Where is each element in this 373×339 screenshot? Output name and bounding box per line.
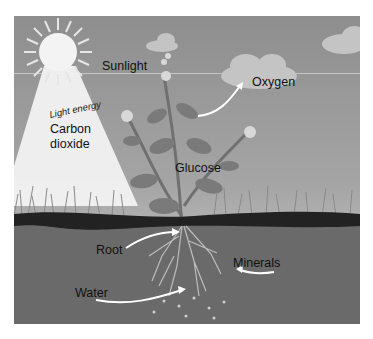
label-sunlight: Sunlight xyxy=(102,59,147,73)
photosynthesis-diagram: Sunlight Light energy Carbon dioxide Oxy… xyxy=(14,16,360,324)
sun-icon xyxy=(24,18,92,86)
label-oxygen: Oxygen xyxy=(252,75,295,89)
light-beam xyxy=(14,66,138,206)
label-minerals: Minerals xyxy=(233,256,280,270)
label-glucose: Glucose xyxy=(175,161,221,175)
label-carbon-dioxide-line2: dioxide xyxy=(50,137,90,151)
label-carbon-dioxide-line1: Carbon xyxy=(50,122,91,136)
label-root: Root xyxy=(96,243,122,257)
label-water: Water xyxy=(75,286,108,300)
